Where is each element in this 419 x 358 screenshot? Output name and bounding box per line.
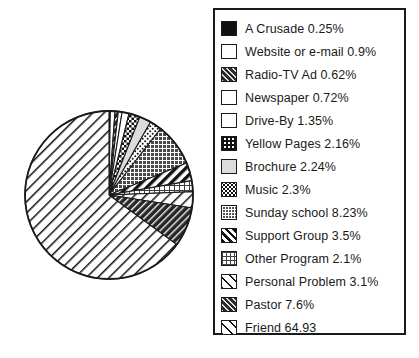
legend-item[interactable]: Pastor 7.6% [221,293,404,316]
legend-item[interactable]: Brochure 2.24% [221,155,404,178]
legend-item-label: Friend 64.93 [245,321,316,335]
legend-swatch-icon [221,21,237,36]
legend-item-label: Sunday school 8.23% [245,206,368,220]
legend-swatch-icon [221,205,237,220]
legend-swatch-icon [221,274,237,289]
legend-item[interactable]: Radio-TV Ad 0.62% [221,63,404,86]
legend-item[interactable]: Newspaper 0.72% [221,86,404,109]
legend-swatch-icon [221,182,237,197]
legend-item-label: Radio-TV Ad 0.62% [245,68,356,82]
legend-item-label: Yellow Pages 2.16% [245,137,360,151]
legend-item-label: Support Group 3.5% [245,229,361,243]
legend-swatch-icon [221,320,237,335]
legend-item-label: Personal Problem 3.1% [245,275,378,289]
legend-item[interactable]: A Crusade 0.25% [221,17,404,40]
legend-item[interactable]: Support Group 3.5% [221,224,404,247]
legend-swatch-icon [221,251,237,266]
legend-swatch-icon [221,90,237,105]
legend-item[interactable]: Website or e-mail 0.9% [221,40,404,63]
legend-item[interactable]: Music 2.3% [221,178,404,201]
legend-item[interactable]: Other Program 2.1% [221,247,404,270]
legend-item-label: Newspaper 0.72% [245,91,349,105]
legend: A Crusade 0.25%Website or e-mail 0.9%Rad… [213,8,406,335]
legend-item[interactable]: Personal Problem 3.1% [221,270,404,293]
legend-swatch-icon [221,297,237,312]
legend-swatch-icon [221,228,237,243]
legend-item-label: Pastor 7.6% [245,298,314,312]
legend-item[interactable]: Friend 64.93 [221,316,404,339]
pie-chart [14,100,204,290]
legend-swatch-icon [221,136,237,151]
legend-item-label: Brochure 2.24% [245,160,336,174]
pie-svg [14,100,204,290]
legend-item-label: Drive-By 1.35% [245,114,333,128]
legend-swatch-icon [221,159,237,174]
legend-item-label: Music 2.3% [245,183,311,197]
legend-list: A Crusade 0.25%Website or e-mail 0.9%Rad… [215,10,404,333]
legend-swatch-icon [221,113,237,128]
legend-item-label: A Crusade 0.25% [245,22,344,36]
pie-chart-figure: A Crusade 0.25%Website or e-mail 0.9%Rad… [0,0,419,358]
legend-item[interactable]: Yellow Pages 2.16% [221,132,404,155]
legend-swatch-icon [221,44,237,59]
legend-item-label: Other Program 2.1% [245,252,361,266]
legend-item-label: Website or e-mail 0.9% [245,45,376,59]
legend-item[interactable]: Drive-By 1.35% [221,109,404,132]
legend-item[interactable]: Sunday school 8.23% [221,201,404,224]
legend-swatch-icon [221,67,237,82]
